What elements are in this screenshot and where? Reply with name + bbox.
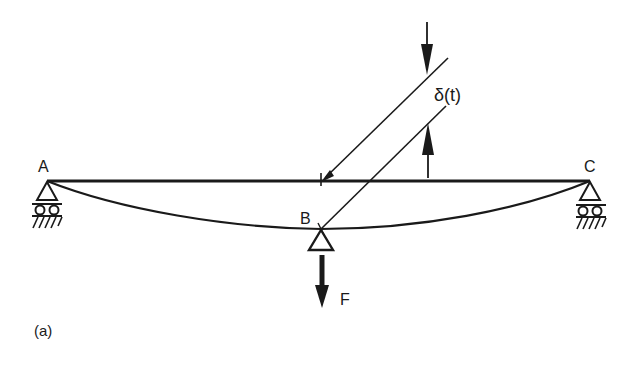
deflection-arrow-up	[422, 123, 434, 178]
deflected-beam	[47, 181, 590, 229]
label-force: F	[340, 291, 350, 308]
label-deflection: δ(t)	[434, 85, 461, 105]
support-a	[32, 182, 62, 228]
label-b: B	[300, 210, 311, 227]
beam-diagram: A C B F δ(t) (a)	[0, 0, 632, 366]
extension-line-upper	[326, 58, 448, 177]
label-c: C	[584, 158, 596, 175]
support-c	[576, 182, 606, 229]
support-b	[309, 223, 333, 250]
force-arrow	[315, 255, 329, 308]
label-a: A	[38, 158, 49, 175]
deflection-arrow-down	[421, 22, 433, 75]
figure-caption: (a)	[34, 322, 52, 339]
